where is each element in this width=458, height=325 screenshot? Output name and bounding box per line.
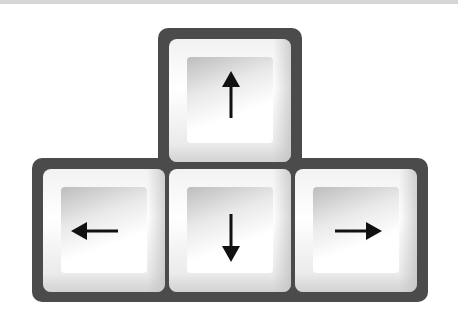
arrow-left-key[interactable]: [43, 169, 165, 292]
top-border-strip: [0, 0, 458, 4]
key-shade-bottom: [169, 144, 291, 162]
key-shade-bottom: [169, 274, 291, 292]
key-shade-bottom: [43, 274, 165, 292]
arrow-left-icon: [71, 221, 119, 241]
arrow-up-key[interactable]: [169, 39, 291, 162]
arrow-right-icon: [335, 221, 383, 241]
arrow-up-icon: [221, 71, 241, 119]
arrow-right-key[interactable]: [295, 169, 417, 292]
arrow-down-icon: [221, 214, 241, 262]
key-shade-bottom: [295, 274, 417, 292]
arrow-down-key[interactable]: [169, 169, 291, 292]
